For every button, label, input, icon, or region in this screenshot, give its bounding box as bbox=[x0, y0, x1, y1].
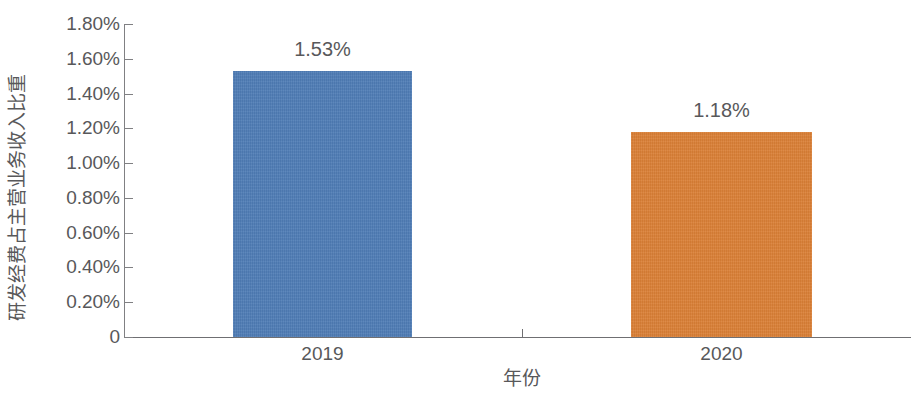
plot-area: 1.53%20191.18%2020 bbox=[0, 0, 913, 394]
y-axis-tick-mark bbox=[124, 337, 133, 338]
y-axis-tick-mark bbox=[124, 233, 133, 234]
bar[interactable] bbox=[233, 71, 412, 337]
x-axis-tick-mark bbox=[522, 329, 523, 337]
bar-chart: 研发经费占主营业务收入比重 1.80%1.60%1.40%1.20%1.00%0… bbox=[0, 0, 913, 394]
y-axis-tick-mark bbox=[124, 59, 133, 60]
bar[interactable] bbox=[631, 132, 812, 337]
x-axis-category-label: 2020 bbox=[591, 344, 852, 364]
y-axis-tick-mark bbox=[124, 94, 133, 95]
y-axis-tick-mark bbox=[124, 163, 133, 164]
y-axis-tick-mark bbox=[124, 302, 133, 303]
y-axis-tick-mark bbox=[124, 128, 133, 129]
y-axis-tick-mark bbox=[124, 198, 133, 199]
y-axis-tick-mark bbox=[124, 267, 133, 268]
bar-texture bbox=[233, 71, 412, 337]
y-axis-tick-mark bbox=[124, 24, 133, 25]
bar-value-label: 1.53% bbox=[233, 39, 412, 59]
bar-value-label: 1.18% bbox=[631, 100, 812, 120]
x-axis-title: 年份 bbox=[422, 369, 622, 389]
x-axis-category-label: 2019 bbox=[193, 344, 452, 364]
bar-texture bbox=[631, 132, 812, 337]
